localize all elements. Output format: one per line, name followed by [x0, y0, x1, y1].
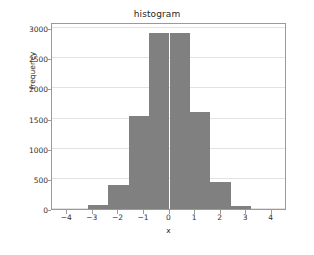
x-tick-label: 4 [268, 213, 273, 222]
histogram-bar [149, 33, 169, 209]
x-tick-label: 1 [192, 213, 197, 222]
x-tick-mark [66, 210, 67, 214]
y-tick-mark [48, 29, 52, 30]
x-tick-label: −4 [61, 213, 72, 222]
x-tick-mark [92, 210, 93, 214]
x-tick-mark [117, 210, 118, 214]
y-tick-label: 1000 [8, 145, 48, 154]
plot-area [51, 23, 286, 210]
histogram-figure: histogram 050010001500200025003000 −4−3−… [0, 0, 314, 255]
x-tick-mark [169, 210, 170, 214]
y-tick-mark [48, 59, 52, 60]
x-tick-mark [245, 210, 246, 214]
x-tick-label: 2 [217, 213, 222, 222]
x-tick-mark [220, 210, 221, 214]
histogram-bar [210, 182, 230, 209]
y-axis-label: frequency [28, 21, 37, 121]
histogram-bar [88, 205, 108, 209]
histogram-bar [108, 185, 128, 209]
y-tick-label: 500 [8, 175, 48, 184]
histogram-bar [129, 116, 149, 209]
chart-title: histogram [0, 9, 314, 19]
x-tick-label: −2 [112, 213, 123, 222]
histogram-bar [170, 33, 190, 209]
x-tick-label: −3 [86, 213, 97, 222]
y-tick-mark [48, 150, 52, 151]
x-tick-label: −1 [137, 213, 148, 222]
y-tick-mark [48, 180, 52, 181]
y-tick-mark [48, 210, 52, 211]
histogram-bar [231, 206, 251, 209]
x-tick-mark [271, 210, 272, 214]
y-tick-mark [48, 120, 52, 121]
x-axis-label: x [51, 226, 286, 235]
x-tick-label: 0 [166, 213, 171, 222]
x-tick-label: 3 [243, 213, 248, 222]
y-tick-mark [48, 89, 52, 90]
gridline [52, 27, 285, 28]
x-tick-mark [143, 210, 144, 214]
x-tick-mark [194, 210, 195, 214]
y-tick-label: 0 [8, 206, 48, 215]
histogram-bar [190, 112, 210, 209]
